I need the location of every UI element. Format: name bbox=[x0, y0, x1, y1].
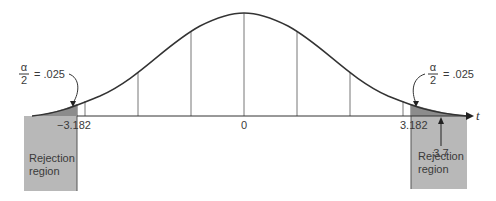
left-critical-label: −3.182 bbox=[57, 119, 91, 131]
t-distribution-diagram: t 0 −3.182 3.182 3.7 Rejection region Re… bbox=[0, 0, 496, 201]
svg-text:2: 2 bbox=[21, 74, 27, 86]
right-alpha-annotation: α 2 = .025 bbox=[413, 61, 474, 107]
svg-text:= .025: = .025 bbox=[34, 68, 65, 80]
axis-arrow-icon bbox=[466, 112, 474, 120]
svg-text:α: α bbox=[21, 61, 28, 73]
vertical-lines bbox=[85, 13, 403, 116]
right-critical-label: 3.182 bbox=[400, 119, 428, 131]
right-rejection-label-1: Rejection bbox=[418, 150, 464, 162]
right-rejection-label-2: region bbox=[418, 163, 449, 175]
svg-text:α: α bbox=[430, 61, 437, 73]
density-curve bbox=[32, 13, 467, 116]
left-tail-area bbox=[32, 104, 77, 116]
left-rejection-label-1: Rejection bbox=[29, 152, 75, 164]
svg-text:= .025: = .025 bbox=[443, 68, 474, 80]
right-tail-area bbox=[411, 104, 467, 116]
center-tick-label: 0 bbox=[241, 119, 247, 131]
svg-text:2: 2 bbox=[430, 74, 436, 86]
axis-label: t bbox=[476, 108, 480, 123]
left-rejection-label-2: region bbox=[29, 165, 60, 177]
left-alpha-annotation: α 2 = .025 bbox=[19, 61, 78, 107]
